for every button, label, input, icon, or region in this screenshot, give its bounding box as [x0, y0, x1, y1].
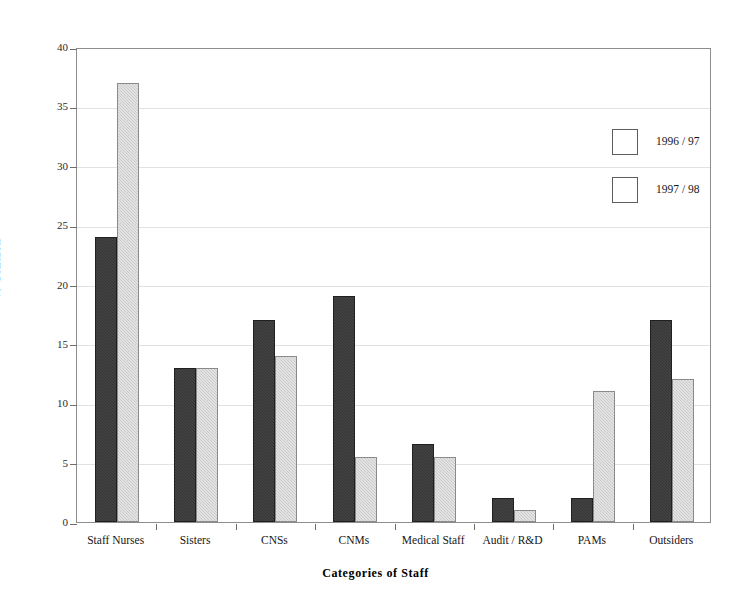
x-axis-tick	[633, 524, 634, 530]
gridline	[77, 345, 710, 346]
y-axis-tick-label: 5	[28, 458, 68, 469]
gridline	[77, 405, 710, 406]
bar	[492, 498, 514, 522]
bar	[275, 356, 297, 522]
bar	[650, 320, 672, 522]
y-axis-title: % Contacts	[0, 208, 2, 328]
plot-area: 1996 / 97 1997 / 98	[76, 48, 711, 523]
bar	[412, 444, 434, 522]
y-axis-tick	[70, 49, 77, 50]
y-axis-tick	[70, 227, 77, 228]
gridline	[77, 227, 710, 228]
y-axis-tick-label: 20	[28, 280, 68, 291]
y-axis-tick-label: 10	[28, 398, 68, 409]
bar	[196, 368, 218, 522]
bar	[672, 379, 694, 522]
bar	[593, 391, 615, 522]
y-axis-tick-label: 40	[28, 42, 68, 53]
y-axis-tick-label: 0	[28, 517, 68, 528]
x-axis-tick	[156, 524, 157, 530]
bar	[355, 457, 377, 522]
y-axis-tick-label: 30	[28, 161, 68, 172]
legend-swatch-1997-98	[612, 177, 638, 203]
bar-chart-figure: % Contacts 0510152025303540 1996 / 97 19…	[0, 0, 751, 607]
bar	[514, 510, 536, 522]
legend-label-1997-98: 1997 / 98	[656, 183, 699, 196]
x-axis-tick	[553, 524, 554, 530]
x-axis-tick	[315, 524, 316, 530]
y-axis-tick-label: 35	[28, 101, 68, 112]
gridline	[77, 108, 710, 109]
x-axis-tick-label: Outsiders	[611, 534, 731, 547]
y-axis-tick	[70, 524, 77, 525]
bar	[174, 368, 196, 522]
bar	[571, 498, 593, 522]
y-axis-tick	[70, 405, 77, 406]
y-axis-tick	[70, 108, 77, 109]
bar	[434, 457, 456, 522]
legend-label-1996-97: 1996 / 97	[656, 135, 699, 148]
y-axis-tick-label: 25	[28, 220, 68, 231]
gridline	[77, 464, 710, 465]
bar	[95, 237, 117, 522]
bar	[253, 320, 275, 522]
bar	[117, 83, 139, 522]
legend-swatch-1996-97	[612, 129, 638, 155]
x-axis-tick	[474, 524, 475, 530]
x-axis-tick	[395, 524, 396, 530]
gridline	[77, 286, 710, 287]
y-axis-tick	[70, 464, 77, 465]
x-axis-tick	[236, 524, 237, 530]
y-axis-tick	[70, 286, 77, 287]
x-axis-title: Categories of Staff	[0, 566, 751, 581]
y-axis-tick	[70, 345, 77, 346]
y-axis-tick	[70, 167, 77, 168]
y-axis-tick-label: 15	[28, 339, 68, 350]
bar	[333, 296, 355, 522]
gridline	[77, 167, 710, 168]
